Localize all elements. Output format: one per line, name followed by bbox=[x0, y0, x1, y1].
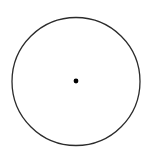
figure-canvas bbox=[0, 0, 152, 148]
geometry-figure-svg bbox=[0, 0, 152, 148]
center-point-dot bbox=[74, 79, 79, 84]
figure-background bbox=[0, 0, 152, 148]
